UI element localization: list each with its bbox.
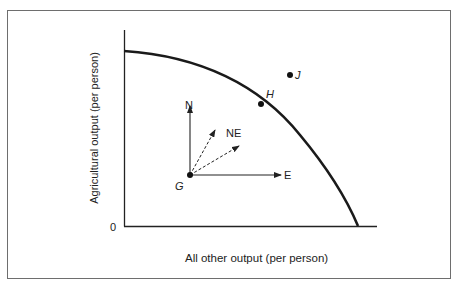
y-axis-label: Agricultural output (per person) — [88, 52, 100, 204]
point-j-label: J — [295, 70, 301, 81]
origin-label: 0 — [110, 222, 116, 233]
northeast-arrow-2 — [190, 146, 239, 175]
point-j-marker — [287, 72, 293, 78]
north-label: N — [185, 100, 193, 111]
point-g-marker — [187, 172, 193, 178]
point-h-marker — [258, 101, 264, 107]
point-g-label: G — [175, 181, 184, 192]
northeast-label: NE — [226, 128, 241, 139]
x-axis-label: All other output (per person) — [185, 253, 328, 265]
point-h-label: H — [266, 89, 274, 100]
east-label: E — [284, 170, 291, 181]
northeast-arrow-1 — [190, 130, 215, 175]
ppf-diagram — [0, 0, 458, 286]
